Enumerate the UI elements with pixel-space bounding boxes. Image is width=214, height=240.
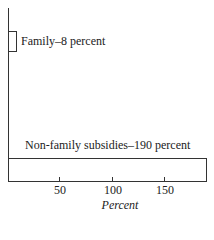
x-tick-label-100: 100 (98, 183, 128, 198)
x-tick-100 (112, 177, 113, 181)
bar-family (8, 31, 17, 52)
x-tick-150 (164, 177, 165, 181)
x-tick-label-150: 150 (150, 183, 180, 198)
bar-label-non-family: Non-family subsidies–190 percent (25, 138, 190, 153)
x-axis-label: Percent (90, 198, 150, 213)
bar-non-family (8, 158, 207, 182)
bar-label-family: Family–8 percent (21, 34, 105, 49)
x-tick-label-50: 50 (45, 183, 75, 198)
x-tick-50 (59, 177, 60, 181)
